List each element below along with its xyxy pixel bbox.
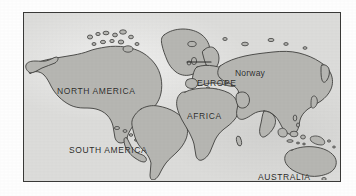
island-pacific-1 [327,140,330,142]
island-arctic-2 [96,32,100,35]
island-arctic-4 [113,33,118,37]
landmass-south-america [132,106,188,180]
island-caribbean-1 [114,127,119,130]
island-philippines-2 [297,123,300,127]
island-arctic-11 [135,43,139,46]
island-sumatra [278,128,287,137]
island-novaya-zemlya [242,42,249,46]
island-philippines-1 [293,115,297,121]
island-madagascar [236,136,243,147]
island-arctic-10 [129,35,134,39]
island-caribbean-2 [123,130,127,133]
label-south-america: SOUTH AMERICA [69,146,147,155]
landmass-africa [177,88,239,160]
island-arctic-1 [87,35,92,39]
landmass-arabia [236,92,250,108]
label-norway-callout: Norway [235,69,265,78]
island-iceland [188,41,196,46]
map-image: NORTH AMERICA SOUTH AMERICA EUROPE AFRIC… [0,0,356,196]
label-north-america: NORTH AMERICA [57,87,136,96]
landmass-iberia [186,79,198,89]
label-australia: AUSTRALIA [258,173,311,182]
island-lesser-sunda-1 [296,142,299,144]
map-frame: NORTH AMERICA SOUTH AMERICA EUROPE AFRIC… [23,12,341,182]
label-africa: AFRICA [187,112,222,121]
island-svalbard [223,38,227,41]
island-great-britain [191,57,196,64]
island-arctic-9 [118,40,124,44]
island-arctic-asia-1 [284,43,288,46]
island-arctic-5 [120,30,127,34]
island-sulawesi [301,135,306,139]
label-europe: EUROPE [197,79,237,88]
island-arctic-6 [92,43,96,46]
island-tasmania [322,178,326,181]
island-new-guinea [310,136,324,145]
island-java [287,140,293,143]
island-japan [311,96,317,108]
island-arctic-3 [103,31,109,35]
island-caribbean-3 [129,134,132,137]
island-arctic-7 [100,40,105,43]
island-lesser-sunda-2 [303,143,306,145]
island-pacific-2 [333,146,336,148]
island-baffin [123,46,133,52]
island-arctic-asia-2 [303,47,307,50]
island-severnaya [268,38,274,41]
landmass-india [260,111,276,137]
island-arctic-8 [110,39,114,42]
island-borneo [290,131,298,137]
